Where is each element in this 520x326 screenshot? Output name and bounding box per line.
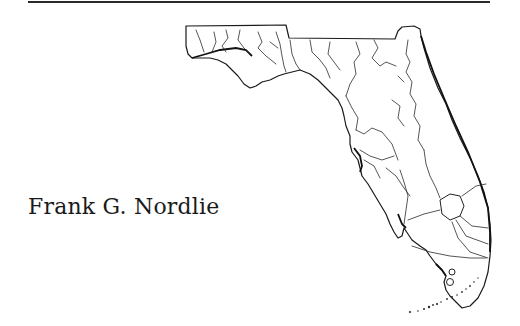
river (364, 160, 380, 178)
river (276, 32, 286, 72)
river (372, 40, 396, 66)
river (310, 40, 330, 78)
bay-island (449, 269, 455, 275)
river (270, 42, 278, 48)
river (398, 76, 404, 82)
river (212, 32, 216, 52)
river (346, 42, 360, 96)
river (356, 128, 398, 160)
canal (460, 216, 488, 228)
florida-map (0, 0, 520, 326)
bay-island (447, 279, 454, 286)
river (408, 210, 440, 220)
river (406, 40, 424, 150)
river (346, 96, 358, 130)
atlantic-coast-line (421, 36, 490, 252)
canal (456, 220, 488, 244)
panhandle-barrier-coast (192, 48, 252, 58)
river (258, 32, 276, 64)
river (360, 150, 394, 160)
river (400, 170, 408, 224)
river (196, 30, 204, 52)
river (392, 100, 404, 126)
ten-thousand-islands (436, 264, 446, 276)
river (424, 150, 440, 198)
florida-map-svg (0, 0, 520, 326)
river (328, 42, 340, 70)
river (290, 40, 300, 70)
